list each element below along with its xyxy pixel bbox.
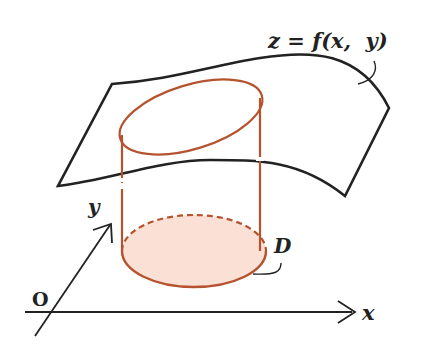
surface-sheet <box>58 54 389 196</box>
x-axis-label: x <box>361 300 375 325</box>
origin-label: O <box>32 288 49 310</box>
region-label: D <box>273 234 292 258</box>
double-integral-diagram: z = f(x, y) D O x y <box>0 0 439 360</box>
surface-equation-label: z = f(x, y) <box>267 28 388 53</box>
y-axis-label: y <box>87 195 101 219</box>
y-axis <box>35 225 110 336</box>
region-d <box>122 215 266 287</box>
